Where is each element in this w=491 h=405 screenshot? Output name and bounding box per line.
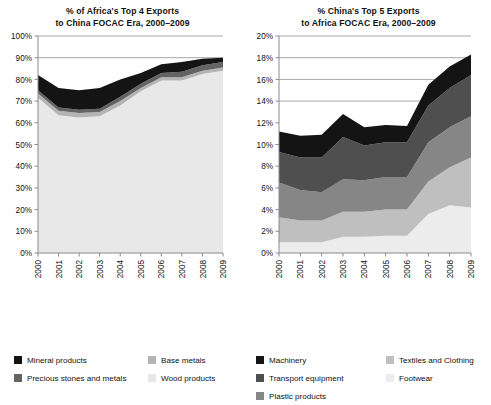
- legend-swatch-icon: [256, 392, 264, 400]
- y-tick-label: 14%: [257, 97, 273, 106]
- legend-item-label: Footwear: [399, 374, 433, 383]
- legend-swatch-icon: [256, 374, 264, 382]
- legend-left-column-1: Mineral productsPrecious stones and meta…: [14, 351, 126, 387]
- x-tick-label: 2003: [96, 260, 105, 279]
- legend-item-label: Mineral products: [27, 356, 87, 365]
- x-tick-label: 2002: [75, 260, 84, 279]
- x-tick-label: 2005: [137, 260, 146, 279]
- legend-right-column-2: Textiles and ClothingFootwear: [386, 351, 474, 387]
- legend-item[interactable]: Base metals: [148, 351, 215, 369]
- legend-swatch-icon: [14, 374, 22, 382]
- x-tick-label: 2009: [467, 260, 476, 279]
- x-tick-label: 2004: [360, 260, 369, 279]
- legend-item-label: Base metals: [161, 356, 206, 365]
- y-tick-label: 40%: [16, 162, 32, 171]
- x-tick-label: 2003: [339, 260, 348, 279]
- legend-item[interactable]: Transport equipment: [256, 369, 343, 387]
- x-tick-label: 2004: [116, 260, 125, 279]
- y-tick-label: 50%: [16, 141, 32, 150]
- y-tick-label: 8%: [261, 162, 273, 171]
- x-tick-label: 2008: [446, 260, 455, 279]
- legend-item-label: Machinery: [269, 356, 306, 365]
- x-tick-label: 2001: [296, 260, 305, 279]
- y-tick-label: 10%: [257, 141, 273, 150]
- legend-item-label: Wood products: [161, 374, 215, 383]
- area-chart-china-exports: 0%2%4%6%8%10%12%14%16%18%20%200020012002…: [246, 30, 491, 295]
- y-tick-label: 4%: [261, 206, 273, 215]
- legend-item-label: Plastic products: [269, 392, 326, 401]
- legend-item[interactable]: Wood products: [148, 369, 215, 387]
- legend-left-column-2: Base metalsWood products: [148, 351, 215, 387]
- legend-item-label: Precious stones and metals: [27, 374, 126, 383]
- x-tick-label: 2001: [55, 260, 64, 279]
- x-tick-label: 2008: [199, 260, 208, 279]
- legend-swatch-icon: [386, 374, 394, 382]
- y-tick-label: 12%: [257, 119, 273, 128]
- y-tick-label: 16%: [257, 76, 273, 85]
- y-tick-label: 18%: [257, 54, 273, 63]
- y-tick-label: 100%: [11, 32, 32, 41]
- legend-item[interactable]: Textiles and Clothing: [386, 351, 474, 369]
- x-tick-label: 2006: [157, 260, 166, 279]
- x-tick-label: 2007: [424, 260, 433, 279]
- x-tick-label: 2000: [34, 260, 43, 279]
- chart-title-left-line2: to China FOCAC Era, 2000–2009: [0, 18, 245, 30]
- y-tick-label: 0%: [20, 249, 32, 258]
- chart-panel-africa-exports: % of Africa's Top 4 Exports to China FOC…: [0, 0, 245, 357]
- x-tick-label: 2009: [219, 260, 228, 279]
- legend-item[interactable]: Footwear: [386, 369, 474, 387]
- x-tick-label: 2006: [403, 260, 412, 279]
- y-tick-label: 90%: [16, 54, 32, 63]
- x-tick-label: 2007: [178, 260, 187, 279]
- legend-item[interactable]: Mineral products: [14, 351, 126, 369]
- y-tick-label: 20%: [257, 32, 273, 41]
- y-tick-label: 2%: [261, 227, 273, 236]
- y-tick-label: 70%: [16, 97, 32, 106]
- x-tick-label: 2000: [275, 260, 284, 279]
- chart-title-right-line1: % China's Top 5 Exports: [246, 6, 491, 18]
- chart-title-left: % of Africa's Top 4 Exports to China FOC…: [0, 6, 245, 29]
- legend-item-label: Textiles and Clothing: [399, 356, 474, 365]
- legend-swatch-icon: [148, 356, 156, 364]
- legend-item[interactable]: Precious stones and metals: [14, 369, 126, 387]
- chart-title-right-line2: to Africa FOCAC Era, 2000–2009: [246, 18, 491, 30]
- chart-title-right: % China's Top 5 Exports to Africa FOCAC …: [246, 6, 491, 29]
- y-tick-label: 0%: [261, 249, 273, 258]
- y-tick-label: 30%: [16, 184, 32, 193]
- legend-item[interactable]: Plastic products: [256, 387, 343, 405]
- legend-item-label: Transport equipment: [269, 374, 343, 383]
- x-tick-label: 2002: [318, 260, 327, 279]
- chart-title-left-line1: % of Africa's Top 4 Exports: [0, 6, 245, 18]
- legend-item[interactable]: Machinery: [256, 351, 343, 369]
- y-tick-label: 60%: [16, 119, 32, 128]
- area-chart-africa-exports: 0%10%20%30%40%50%60%70%80%90%100%2000200…: [0, 30, 245, 295]
- y-tick-label: 80%: [16, 76, 32, 85]
- x-tick-label: 2005: [382, 260, 391, 279]
- y-tick-label: 20%: [16, 206, 32, 215]
- legend-swatch-icon: [14, 356, 22, 364]
- legend-right-column-1: MachineryTransport equipmentPlastic prod…: [256, 351, 343, 405]
- legend-swatch-icon: [148, 374, 156, 382]
- legend-swatch-icon: [256, 356, 264, 364]
- legend-swatch-icon: [386, 356, 394, 364]
- chart-panel-china-exports: % China's Top 5 Exports to Africa FOCAC …: [246, 0, 491, 357]
- y-tick-label: 6%: [261, 184, 273, 193]
- y-tick-label: 10%: [16, 227, 32, 236]
